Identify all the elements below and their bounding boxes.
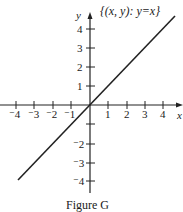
y-tick-label: 1 [77, 81, 83, 92]
y-tick-label: 3 [77, 43, 83, 54]
x-axis-label: x [177, 110, 182, 121]
x-tick-label: 4 [160, 109, 166, 120]
y-tick-label: 2 [77, 62, 83, 73]
y-axis-label: y [76, 10, 81, 21]
y-tick-label: 4 [77, 24, 83, 35]
y-tick-label: ⁻4 [73, 176, 84, 187]
x-axis-arrow-icon [176, 103, 183, 108]
x-tick-label: 1 [105, 109, 111, 120]
y-axis-arrow-icon [88, 12, 93, 19]
figure-caption: Figure G [66, 198, 109, 212]
x-tick-label: ⁻4 [9, 109, 20, 120]
x-tick-label: ⁻1 [64, 109, 75, 120]
line-y-equals-x [18, 16, 175, 180]
x-tick-label: 3 [142, 109, 148, 120]
y-tick-label: ⁻3 [73, 158, 84, 169]
x-tick-label: 2 [124, 109, 130, 120]
x-tick-label: ⁻3 [28, 109, 39, 120]
set-annotation: {(x, y): y=x} [100, 4, 160, 19]
y-tick-label: ⁻2 [73, 139, 84, 150]
coordinate-plane [0, 0, 183, 212]
x-tick-label: ⁻2 [46, 109, 57, 120]
